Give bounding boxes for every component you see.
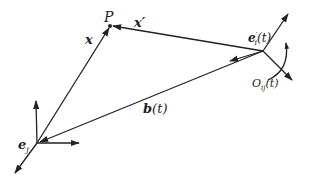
- frame-i-label: e′i(t): [248, 30, 272, 47]
- frame-j-axis-up: [36, 101, 37, 143]
- frame-j-label: ej: [18, 137, 29, 154]
- vector-x-label: x: [84, 32, 93, 47]
- frame-transformation-diagram: P x x′ b(t) ej e′i(t) Oij(t): [0, 0, 310, 177]
- vector-b-arrow: [40, 51, 263, 142]
- rotation-arg: (t): [265, 77, 278, 90]
- vector-b-arg: (t): [152, 101, 167, 116]
- point-p-label: P: [103, 9, 114, 25]
- vector-b-label: b(t): [143, 101, 167, 116]
- vector-x-arrow: [37, 28, 109, 143]
- frame-i-axis-left: [230, 51, 263, 61]
- frame-i-arg: (t): [257, 31, 272, 45]
- vector-x-prime-label: x′: [133, 15, 146, 30]
- rotation-arc-arrow: [268, 43, 287, 80]
- frame-j-symbol: e: [18, 137, 26, 152]
- frame-i-axis-downright: [263, 51, 292, 80]
- rotation-label: Oij(t): [252, 77, 278, 92]
- rotation-symbol: O: [252, 77, 261, 90]
- vector-b-symbol: b: [143, 101, 152, 116]
